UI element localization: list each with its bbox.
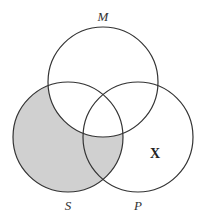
label-s: S <box>65 198 72 213</box>
shaded-region-s-minus-m <box>0 0 202 219</box>
x-marker: X <box>150 146 160 161</box>
venn-diagram: M S P X <box>0 0 202 219</box>
label-p: P <box>133 198 142 213</box>
label-m: M <box>97 9 110 24</box>
